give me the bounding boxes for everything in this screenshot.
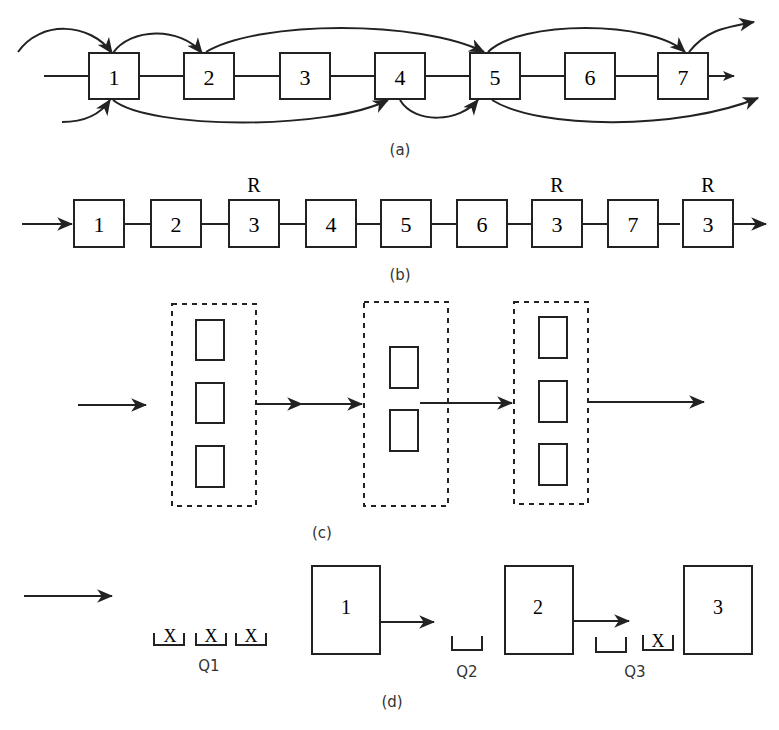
svg-text:7: 7 xyxy=(628,212,639,237)
node-b-3: 3R xyxy=(229,174,279,247)
svg-text:3: 3 xyxy=(552,212,563,237)
station-1: 1 xyxy=(312,566,380,654)
svg-text:5: 5 xyxy=(490,65,501,90)
node-a-1: 1 xyxy=(89,53,139,99)
caption-a: (a) xyxy=(390,141,411,159)
svg-text:3: 3 xyxy=(703,212,714,237)
svg-text:6: 6 xyxy=(585,65,596,90)
svg-text:2: 2 xyxy=(171,212,182,237)
caption-b: (b) xyxy=(389,266,410,284)
svg-text:2: 2 xyxy=(533,596,543,618)
arc-in-to-1-top xyxy=(18,29,112,53)
arc-5-to-7 xyxy=(488,28,685,52)
panel-c: (c) xyxy=(78,302,704,542)
svg-text:X: X xyxy=(652,631,665,651)
arc-4-to-5 xyxy=(400,100,478,118)
node-b-6: 6 xyxy=(457,200,507,247)
node-a-6: 6 xyxy=(565,53,615,99)
svg-text:X: X xyxy=(205,626,218,646)
svg-text:7: 7 xyxy=(678,65,689,90)
caption-c: (c) xyxy=(312,524,332,542)
panel-a: 1 2 3 4 5 6 7 (a) xyxy=(18,22,758,159)
arc-7-to-out xyxy=(689,22,754,52)
queue-label-q3: Q3 xyxy=(624,663,645,681)
arc-5-to-out xyxy=(492,98,758,122)
arc-2-to-5 xyxy=(206,28,484,52)
queue-q1: X X X Q1 xyxy=(154,626,266,675)
arc-in-to-1-bottom xyxy=(62,100,110,122)
station-3: 3 xyxy=(684,566,752,654)
caption-d: (d) xyxy=(381,693,402,711)
queue-q2: Q2 xyxy=(452,636,482,681)
node-b-5: 5 xyxy=(381,200,431,247)
node-b-2: 2 xyxy=(151,200,201,247)
node-a-2: 2 xyxy=(184,53,234,99)
node-b-7: 3R xyxy=(532,174,582,247)
node-a-7: 7 xyxy=(658,53,708,99)
rework-label: R xyxy=(247,174,261,196)
node-b-4: 4 xyxy=(306,200,356,247)
svg-text:4: 4 xyxy=(395,65,406,90)
node-b-1: 1 xyxy=(74,200,124,247)
node-b-8: 7 xyxy=(608,200,658,247)
station-2: 2 xyxy=(505,566,573,654)
parallel-group-1 xyxy=(172,304,256,506)
svg-text:1: 1 xyxy=(109,65,120,90)
panel-b: 1 2 3R 4 5 6 3R 7 3R (b) xyxy=(22,174,766,284)
svg-text:3: 3 xyxy=(300,65,311,90)
queue-label-q2: Q2 xyxy=(456,663,477,681)
svg-text:X: X xyxy=(245,626,258,646)
node-b-9: 3R xyxy=(683,174,733,247)
arc-1-to-4 xyxy=(113,100,388,123)
node-a-4: 4 xyxy=(375,53,425,99)
svg-text:4: 4 xyxy=(326,212,337,237)
node-a-3: 3 xyxy=(280,53,330,99)
svg-text:5: 5 xyxy=(401,212,412,237)
svg-text:X: X xyxy=(164,626,177,646)
svg-text:3: 3 xyxy=(713,596,723,618)
arc-1-to-2 xyxy=(113,33,202,53)
svg-text:2: 2 xyxy=(204,65,215,90)
svg-text:3: 3 xyxy=(249,212,260,237)
queue-q3: X Q3 xyxy=(596,631,673,681)
node-a-5: 5 xyxy=(470,53,520,99)
panel-d: X X X Q1 1 Q2 2 X Q3 3 xyxy=(24,566,752,711)
rework-label: R xyxy=(701,174,715,196)
svg-text:6: 6 xyxy=(477,212,488,237)
svg-text:1: 1 xyxy=(341,596,351,618)
figure: 1 2 3 4 5 6 7 (a) 1 2 3R 4 5 6 3R 7 3R (… xyxy=(0,0,779,730)
parallel-group-3 xyxy=(514,302,588,504)
svg-text:1: 1 xyxy=(94,212,105,237)
queue-label-q1: Q1 xyxy=(198,657,219,675)
rework-label: R xyxy=(550,174,564,196)
